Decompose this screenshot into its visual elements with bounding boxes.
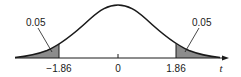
- tick-label-left: −1.86: [46, 63, 72, 74]
- axis-variable-label: t: [219, 62, 223, 74]
- axis-arrow-icon: [222, 56, 229, 61]
- left-label-leader: [38, 28, 52, 52]
- left-area-label: 0.05: [26, 17, 46, 28]
- density-curve: [15, 5, 220, 58]
- right-area-label: 0.05: [192, 17, 212, 28]
- right-label-leader: [185, 28, 199, 52]
- t-distribution-chart: 0.05 0.05 −1.86 0 1.86 t: [0, 0, 241, 77]
- tick-label-center: 0: [115, 63, 121, 74]
- tick-label-right: 1.86: [166, 63, 186, 74]
